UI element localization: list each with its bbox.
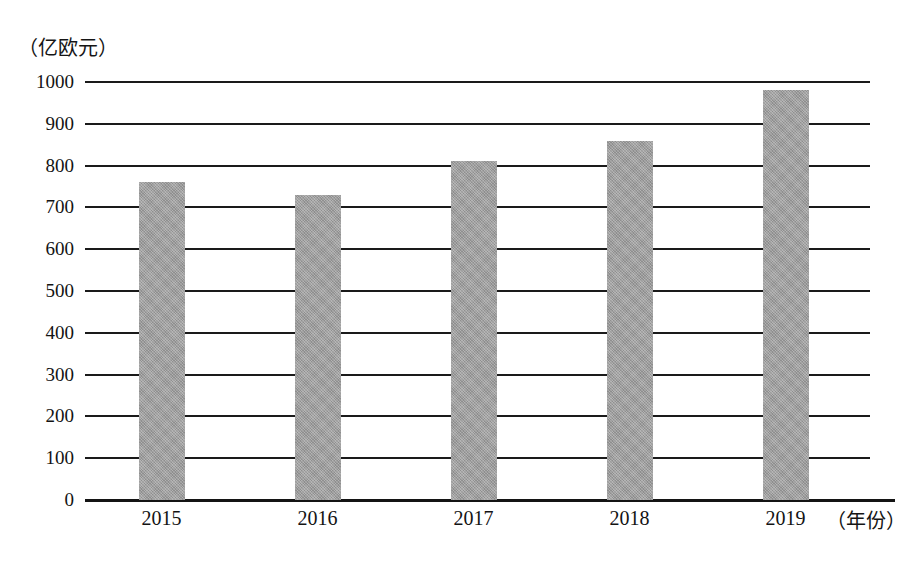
x-axis-tick-label: 2018 [570,508,690,528]
y-axis-tick-label: 100 [12,448,74,467]
y-axis-tick-label: 300 [12,365,74,384]
plot-area: 0100200300400500600700800900100020152016… [0,0,915,573]
bar-2016 [295,195,341,500]
y-axis-tick-label: 400 [12,323,74,342]
bar-2018 [607,141,653,500]
bar-2017 [451,161,497,500]
bar-2019 [763,90,809,500]
y-axis-tick-label: 0 [12,490,74,509]
x-axis-tick-label: 2016 [258,508,378,528]
y-axis-tick-label: 200 [12,406,74,425]
gridline [85,81,870,83]
x-axis-tick-label: 2017 [414,508,534,528]
y-axis-tick-label: 500 [12,281,74,300]
x-axis-unit-label: （年份） [826,505,906,534]
y-axis-tick-label: 1000 [12,72,74,91]
bar-chart: （亿欧元） 0100200300400500600700800900100020… [0,0,915,573]
x-axis-tick-label: 2015 [102,508,222,528]
y-axis-tick-label: 600 [12,239,74,258]
bar-2015 [139,182,185,500]
y-axis-tick-label: 800 [12,156,74,175]
y-axis-tick-label: 900 [12,114,74,133]
y-axis-tick-label: 700 [12,197,74,216]
gridline [85,123,870,125]
